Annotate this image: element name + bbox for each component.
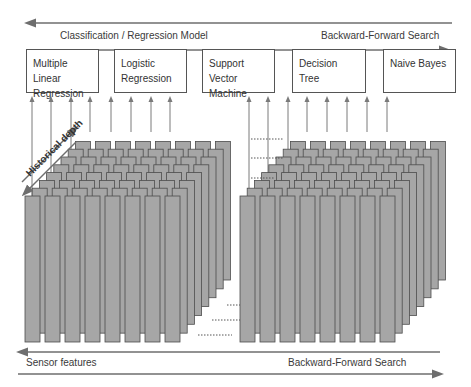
bottom-band-left-label: Sensor features — [26, 357, 97, 368]
model-label: Logistic Regression — [121, 58, 172, 84]
model-label: Multiple Linear Regression — [33, 58, 84, 99]
model-label: Support Vector Machine — [209, 58, 247, 99]
feature-stack — [240, 141, 445, 342]
model-box-decision-tree: Decision Tree — [292, 49, 366, 93]
top-band-right-label: Backward-Forward Search — [321, 30, 439, 41]
model-box-support-vector-machine: Support Vector Machine — [202, 49, 275, 93]
model-box-logistic-regression: Logistic Regression — [114, 49, 187, 93]
feature-stacks — [25, 141, 445, 342]
model-box-multiple-linear-regression: Multiple Linear Regression — [26, 49, 99, 93]
model-label: Naive Bayes — [390, 58, 446, 69]
bottom-band-right-label: Backward-Forward Search — [288, 357, 406, 368]
top-band-left-label: Classification / Regression Model — [60, 30, 208, 41]
model-box-naive-bayes: Naive Bayes — [383, 49, 456, 93]
feature-stack — [25, 141, 230, 342]
model-label: Decision Tree — [299, 58, 337, 84]
